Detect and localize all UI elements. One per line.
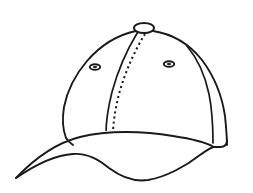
right-eyelet-hole-icon [167, 63, 171, 65]
cap-top-button [134, 23, 154, 33]
baseball-cap-illustration [0, 0, 253, 193]
left-eyelet-hole-icon [93, 66, 97, 68]
top-button-icon [134, 23, 154, 33]
illustration-root: Baseball Cap black and white line art ou… [0, 0, 253, 193]
